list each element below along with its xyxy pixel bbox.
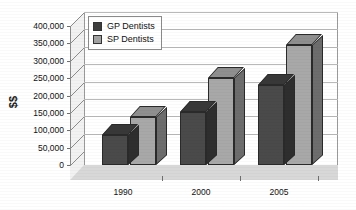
bar-gp-2000: [180, 112, 206, 165]
bar-side-face: [284, 75, 295, 165]
axis-left-wall: [70, 12, 85, 180]
y-axis-tick-labels: 050,000100,000150,000200,000250,000300,0…: [18, 0, 64, 210]
legend-swatch-gp: [93, 22, 102, 31]
x-axis-tickmark: [318, 176, 319, 181]
bar-front-face: [102, 135, 128, 165]
x-axis-tickmark: [240, 176, 241, 181]
legend-label: SP Dentists: [107, 35, 154, 44]
bar-side-face: [234, 68, 245, 165]
y-axis-tick-label: 200,000: [20, 92, 64, 101]
x-axis-tick-label: 2005: [254, 188, 304, 197]
y-axis-tick-label: 50,000: [20, 144, 64, 153]
y-axis-tick-label: 0: [20, 161, 64, 170]
bar-front-face: [180, 112, 206, 165]
y-axis-tick-label: 350,000: [20, 39, 64, 48]
bar-gp-2005: [258, 85, 284, 165]
y-axis-tick-label: 250,000: [20, 74, 64, 83]
x-axis-tick-label: 1990: [98, 188, 148, 197]
y-axis-tick-label: 150,000: [20, 109, 64, 118]
legend-item: GP Dentists: [93, 20, 155, 33]
x-axis-tickmark: [162, 176, 163, 181]
bar-front-face: [258, 85, 284, 165]
y-axis-tick-label: 300,000: [20, 57, 64, 66]
bar-gp-1990: [102, 135, 128, 165]
bar-chart: $$ 050,000100,000150,000200,000250,00030…: [0, 0, 356, 210]
legend-label: GP Dentists: [107, 22, 155, 31]
y-axis-line: [70, 26, 71, 166]
chart-legend: GP DentistsSP Dentists: [88, 16, 162, 50]
y-axis-tick-label: 400,000: [20, 22, 64, 31]
bar-side-face: [312, 35, 323, 165]
legend-item: SP Dentists: [93, 33, 155, 46]
legend-swatch-sp: [93, 35, 102, 44]
plot-floor: [70, 165, 338, 180]
bar-side-face: [206, 102, 217, 165]
x-axis-tick-label: 2000: [176, 188, 226, 197]
gridline: [84, 12, 338, 13]
y-axis-tick-label: 100,000: [20, 126, 64, 135]
